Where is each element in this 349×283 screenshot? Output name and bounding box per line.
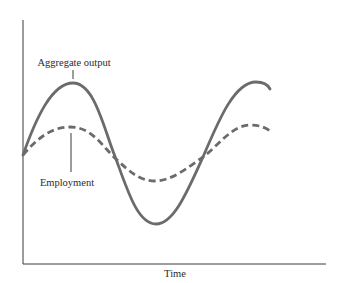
employment-label: Employment bbox=[40, 177, 94, 188]
aggregate-output-label: Aggregate output bbox=[37, 57, 110, 68]
employment-curve bbox=[23, 125, 270, 181]
x-axis-label: Time bbox=[164, 268, 186, 279]
business-cycle-chart: Aggregate output Employment Time bbox=[0, 0, 349, 283]
aggregate-output-curve bbox=[23, 82, 270, 224]
